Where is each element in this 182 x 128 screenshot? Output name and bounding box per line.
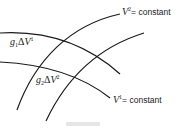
v2-sup-lower: 2	[57, 74, 60, 80]
v2-constant-label: V2= constant	[122, 7, 171, 17]
figure-caption-faded	[66, 122, 100, 126]
v1-constant-label: V1= constant	[113, 95, 162, 105]
g1-delta-v1-label: g1ΔV1	[10, 37, 34, 47]
v1-var: V	[24, 36, 30, 47]
g2-delta-v2-label: g2ΔV2	[36, 75, 60, 85]
g2-sub: 2	[41, 80, 44, 86]
v1-constant-text: = constant	[122, 95, 161, 105]
v2-curve-right	[46, 33, 144, 121]
v2-constant-text: = constant	[131, 7, 170, 17]
v2-var-lower: V	[50, 74, 56, 85]
v1-sup: 1	[31, 36, 34, 42]
g1-sub: 1	[15, 42, 18, 48]
coordinate-curves-diagram: V2= constant g1ΔV1 g2ΔV2 V1= constant	[0, 0, 182, 128]
v2-sup: 2	[128, 6, 131, 12]
curves-svg	[0, 0, 182, 128]
v1-const-sup: 1	[119, 94, 122, 100]
